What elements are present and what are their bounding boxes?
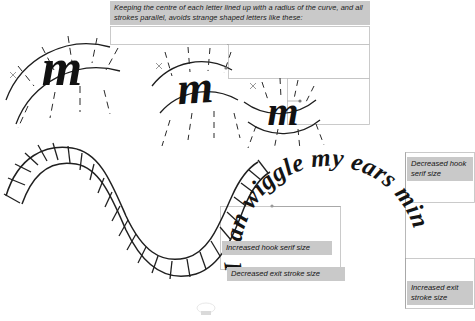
guide-line [188, 113, 192, 140]
guide-line [106, 48, 118, 70]
callout-box-top-right [229, 45, 370, 79]
ribbon-rung [119, 220, 128, 236]
diagram-canvas: m m [0, 0, 475, 321]
ribbon-rung [68, 146, 70, 163]
ribbon-rung [127, 234, 136, 250]
guide-line [92, 38, 97, 63]
specimen-1-marks [10, 72, 16, 78]
dot-mark [298, 99, 301, 102]
guide-line [104, 90, 110, 114]
specimen-2-letter: m [175, 61, 214, 114]
ribbon-rung [200, 252, 206, 269]
callout-box-top-wide [111, 27, 370, 45]
dot-mark [224, 66, 227, 69]
annotation-decreased-hook-serif-size: Decreased hook serif size [407, 157, 473, 181]
path-start-dot [270, 204, 273, 207]
annotation-increased-hook-serif-size: Increased hook serif size [222, 241, 332, 255]
annotation-decreased-exit-stroke-size: Decreased exit stroke size [227, 267, 345, 281]
ribbon-rung [138, 247, 146, 263]
ribbon-rung [80, 153, 82, 170]
annotation-increased-exit-stroke-size: Increased exit stroke size [407, 281, 473, 305]
stray-mark-block [201, 311, 211, 315]
guide-line [316, 124, 324, 145]
specimen-1-group: m [6, 36, 120, 128]
guide-line [248, 126, 256, 148]
specimen-3-letter: m [267, 89, 298, 134]
ribbon-rung [53, 143, 58, 160]
instruction-caption: Keeping the centre of each letter lined … [110, 1, 370, 25]
guide-line [234, 113, 240, 138]
ribbon-rung [152, 256, 158, 273]
guide-line [162, 120, 170, 146]
ribbon-rung [187, 259, 190, 277]
specimen-1-letter: m [42, 39, 82, 96]
ribbon-rung [4, 194, 20, 203]
ribbon-rung [170, 261, 172, 279]
specimen-2-group: m [152, 47, 240, 146]
stray-mark [197, 303, 215, 315]
